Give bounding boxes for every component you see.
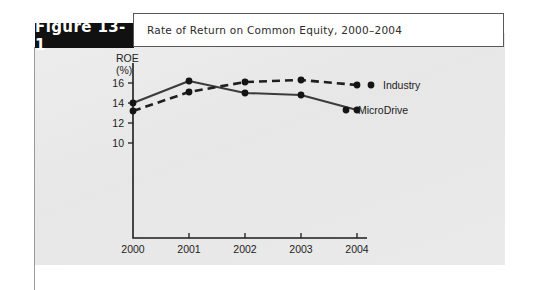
data-point [186, 78, 193, 85]
legend-label-microdrive: MicroDrive [358, 104, 408, 116]
chart-svg: 16 14 12 10 ROE (%) 2000 2001 2002 [0, 0, 533, 290]
y-tick-label: 14 [112, 97, 124, 109]
x-tick-label: 2000 [121, 243, 145, 255]
y-tick-label: 10 [112, 137, 124, 149]
y-axis-title-line1: ROE [116, 52, 139, 64]
data-point [186, 89, 193, 96]
legend-entry-industry: Industry [368, 79, 421, 91]
x-tick-label: 2003 [289, 243, 313, 255]
y-axis-tick-labels: 16 14 12 10 [112, 77, 124, 149]
data-point [298, 77, 305, 84]
data-point [242, 90, 249, 97]
data-point [130, 100, 137, 107]
legend-label-industry: Industry [383, 79, 421, 91]
x-tick-label: 2002 [233, 243, 257, 255]
y-tick-label: 12 [112, 117, 124, 129]
series-layer [130, 77, 361, 115]
data-point [130, 108, 137, 115]
x-axis-tick-labels: 2000 2001 2002 2003 2004 [121, 243, 369, 255]
line-chart: 16 14 12 10 ROE (%) 2000 2001 2002 [0, 0, 533, 290]
x-tick-label: 2004 [345, 243, 369, 255]
y-tick-label: 16 [112, 77, 124, 89]
y-axis-title: ROE (%) [116, 52, 139, 76]
x-tick-label: 2001 [177, 243, 201, 255]
data-point [242, 79, 249, 86]
legend-marker-microdrive [343, 107, 350, 114]
legend-entry-microdrive: MicroDrive [343, 104, 409, 116]
y-axis-title-line2: (%) [116, 64, 132, 76]
data-point [354, 82, 361, 89]
data-point [298, 92, 305, 99]
legend-marker-industry [368, 82, 375, 89]
figure-container: Figure 13-1 Rate of Return on Common Equ… [0, 0, 533, 290]
